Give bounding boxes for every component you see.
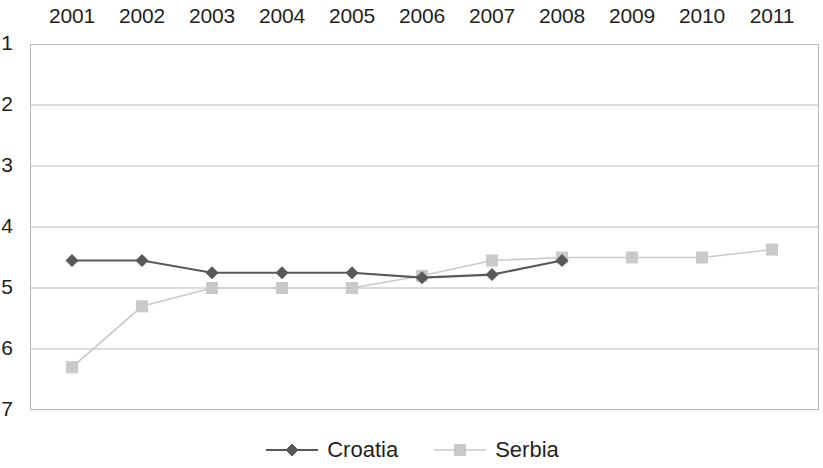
data-point-marker [206,267,218,279]
data-point-marker [486,269,498,281]
data-point-marker [767,244,778,255]
series-serbia [67,244,778,373]
x-axis-tick-label: 2003 [177,4,247,28]
plot-area [30,44,819,410]
gridlines [31,105,818,349]
y-axis-tick-label: 7 [0,397,13,421]
data-point-marker [66,255,78,267]
x-axis-tick-label: 2010 [667,4,737,28]
line-chart-canvas [31,45,818,409]
legend-label: Croatia [327,437,398,463]
y-axis-tick-label: 5 [0,275,13,299]
data-point-marker [207,283,218,294]
data-point-marker [347,283,358,294]
legend-item-serbia[interactable]: Serbia [432,437,559,463]
legend-label: Serbia [495,437,559,463]
x-axis-tick-label: 2001 [37,4,107,28]
legend-item-croatia[interactable]: Croatia [264,437,398,463]
chart-legend: CroatiaSerbia [0,432,823,468]
x-axis-tick-label: 2002 [107,4,177,28]
x-axis-tick-label: 2009 [597,4,667,28]
data-point-marker [277,283,288,294]
y-axis-tick-labels: 1234567 [0,0,26,430]
data-point-marker [697,252,708,263]
x-axis-tick-label: 2004 [247,4,317,28]
square-marker-icon [432,440,488,460]
y-axis-tick-label: 6 [0,336,13,360]
data-point-marker [627,252,638,263]
x-axis-tick-label: 2006 [387,4,457,28]
y-axis-tick-label: 3 [0,153,13,177]
data-point-marker [487,255,498,266]
y-axis-tick-label: 4 [0,214,13,238]
x-axis-tick-labels: 2001200220032004200520062007200820092010… [0,0,823,34]
x-axis-tick-label: 2007 [457,4,527,28]
chart-page: 2001200220032004200520062007200820092010… [0,0,823,468]
data-point-marker [286,444,298,456]
x-axis-tick-label: 2011 [737,4,807,28]
data-point-marker [276,267,288,279]
data-point-marker [67,362,78,373]
diamond-marker-icon [264,440,320,460]
y-axis-tick-label: 2 [0,92,13,116]
data-point-marker [346,267,358,279]
data-point-marker [137,301,148,312]
data-point-marker [136,255,148,267]
y-axis-tick-label: 1 [0,31,13,55]
x-axis-tick-label: 2005 [317,4,387,28]
data-point-marker [455,445,466,456]
x-axis-tick-label: 2008 [527,4,597,28]
